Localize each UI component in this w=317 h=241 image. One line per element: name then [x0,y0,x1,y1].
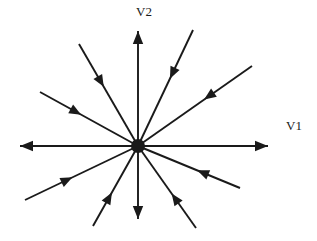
ray-lower-right-steep-arrowhead [172,194,183,207]
ray-lower-left-shallow [25,146,138,200]
phase-portrait-figure: V2 V1 [0,0,317,241]
ray-upper-left-steep-arrowhead [93,74,103,87]
axis-label-v1: V1 [286,119,302,132]
ray-upper-right-steep [138,30,193,146]
ray-upper-right-shallow [138,66,252,146]
axis-label-v2: V2 [136,5,152,18]
rays-group [20,30,268,228]
ray-up-arrowhead [133,31,143,44]
ray-left-arrowhead [20,141,33,151]
equilibrium-point-marker [131,139,145,153]
ray-lower-left-steep [93,146,138,226]
arrowheads-group [20,31,268,219]
vector-field-diagram [0,0,317,241]
ray-down-arrowhead [133,206,143,219]
ray-upper-right-shallow-arrowhead [204,89,217,100]
ray-lower-right-shallow-arrowhead [197,170,210,179]
ray-right-arrowhead [255,141,268,151]
